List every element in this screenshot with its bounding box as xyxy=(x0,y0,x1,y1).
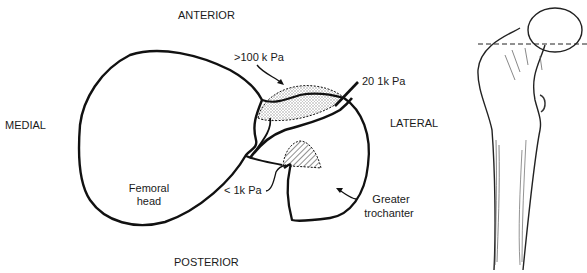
label-anterior: ANTERIOR xyxy=(178,9,235,22)
femur-illustration xyxy=(478,8,587,270)
label-lateral: LATERAL xyxy=(390,117,438,130)
label-medial: MEDIAL xyxy=(5,119,46,132)
femur-shading-left xyxy=(495,140,499,265)
label-trochanter-2: trochanter xyxy=(356,207,422,220)
label-posterior: POSTERIOR xyxy=(174,256,239,269)
femur-outline xyxy=(478,28,545,270)
high-pressure-arrow xyxy=(257,65,282,83)
neck-lower-line xyxy=(246,156,282,165)
femur-cross-section-diagram xyxy=(0,0,587,273)
femur-head xyxy=(528,8,582,52)
trochanter-arrow xyxy=(339,190,356,199)
label-trochanter-1: Greater xyxy=(360,193,422,206)
label-femoral-head-2: head xyxy=(124,195,174,208)
neck-inner-line-2 xyxy=(256,118,270,150)
label-mid-pressure: 20 1k Pa xyxy=(362,75,405,88)
label-femoral-head-1: Femoral xyxy=(124,182,174,195)
label-high-pressure: >100 k Pa xyxy=(234,51,284,64)
femur-neck-shading xyxy=(505,48,542,80)
label-low-pressure: < 1k Pa xyxy=(224,184,262,197)
lesser-trochanter xyxy=(540,95,545,112)
low-pressure-leader xyxy=(266,165,286,191)
